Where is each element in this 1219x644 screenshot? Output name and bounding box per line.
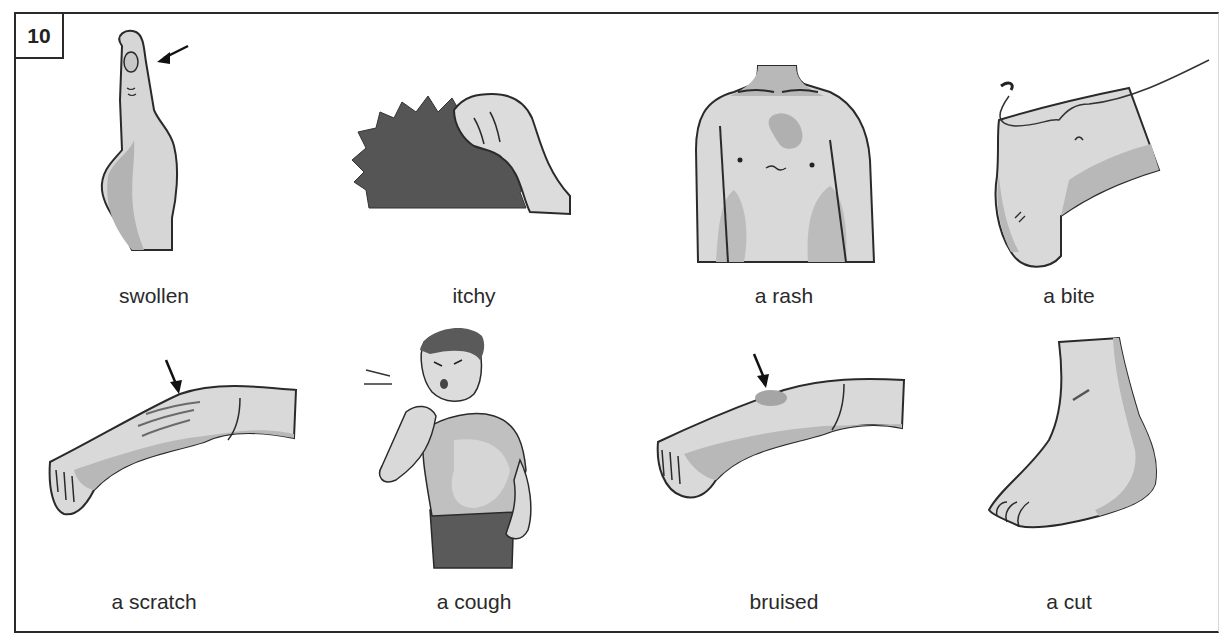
rash-on-chest-icon <box>634 0 934 270</box>
itchy-scratching-hand-icon <box>324 0 624 270</box>
label-a-cut: a cut <box>919 590 1219 614</box>
vocab-card-a-scratch: a scratch <box>4 320 304 644</box>
label-a-cough: a cough <box>324 590 624 614</box>
bruised-arm-icon <box>634 320 934 570</box>
label-a-rash: a rash <box>634 284 934 308</box>
insect-bite-on-knee-icon <box>919 0 1219 270</box>
vocab-card-itchy: itchy <box>324 0 624 320</box>
swollen-finger-icon <box>4 0 304 270</box>
label-itchy: itchy <box>324 284 624 308</box>
scratched-arm-icon <box>4 320 304 570</box>
vocab-card-a-cut: a cut <box>919 320 1219 644</box>
vocab-card-swollen: swollen <box>4 0 304 320</box>
coughing-man-icon <box>324 320 624 570</box>
vocab-card-a-rash: a rash <box>634 0 934 320</box>
cut-foot-icon <box>919 320 1219 570</box>
label-swollen: swollen <box>4 284 304 308</box>
vocab-card-bruised: bruised <box>634 320 934 644</box>
label-a-scratch: a scratch <box>4 590 304 614</box>
label-a-bite: a bite <box>919 284 1219 308</box>
vocab-card-a-cough: a cough <box>324 320 624 644</box>
vocab-card-a-bite: a bite <box>919 0 1219 320</box>
label-bruised: bruised <box>634 590 934 614</box>
